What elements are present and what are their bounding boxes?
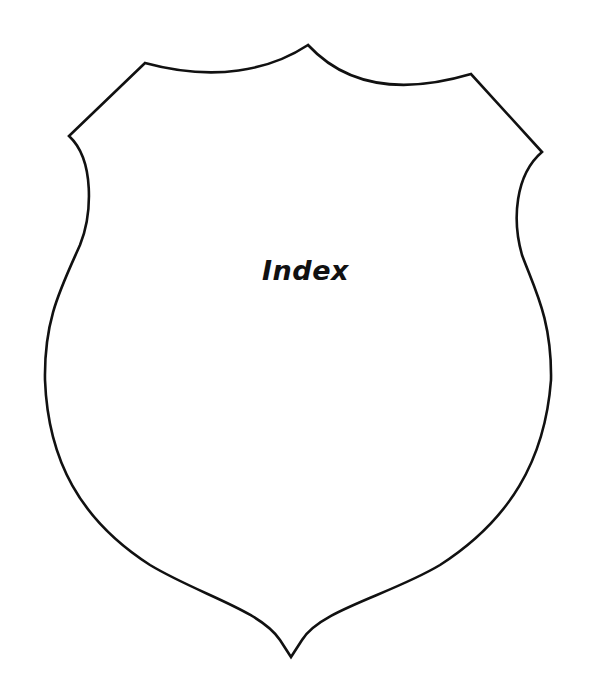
page-title: Index — [0, 257, 595, 284]
shield-path — [45, 45, 551, 657]
shield-outline-icon — [0, 0, 595, 693]
index-page: Index — [0, 0, 595, 693]
